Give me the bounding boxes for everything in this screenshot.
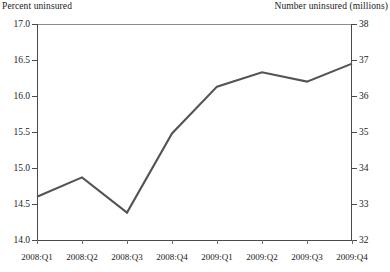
data-series-line	[0, 0, 390, 272]
series-polyline	[37, 64, 352, 213]
chart-container: Percent uninsured Number uninsured (mill…	[0, 0, 390, 272]
